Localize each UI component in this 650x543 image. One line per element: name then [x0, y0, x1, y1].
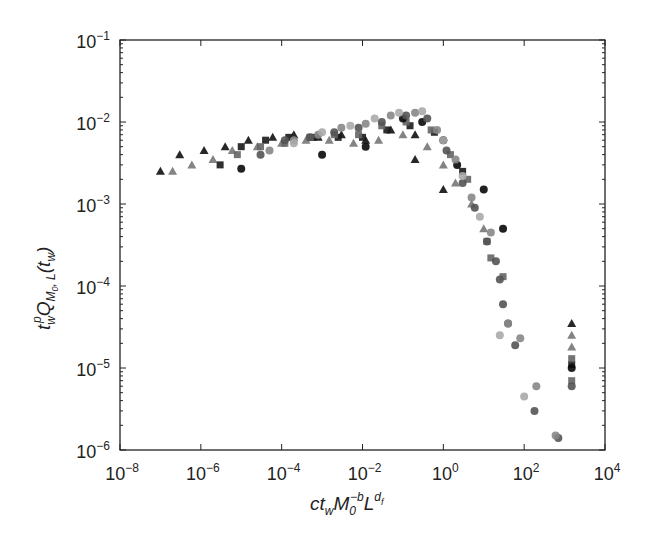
- data-point: [318, 151, 326, 159]
- data-point: [530, 407, 538, 415]
- axis-ticks: [120, 40, 605, 450]
- data-point: [496, 331, 504, 339]
- x-tick-label: 10−6: [186, 461, 220, 484]
- plot-area: [120, 40, 605, 450]
- data-point: [337, 124, 345, 132]
- data-point: [520, 392, 528, 400]
- data-point: [217, 161, 224, 168]
- data-point: [568, 355, 575, 362]
- data-point: [266, 146, 274, 154]
- data-point: [290, 139, 298, 147]
- y-tick-label: 10−4: [76, 275, 110, 298]
- data-point: [187, 160, 196, 168]
- data-point: [374, 136, 383, 144]
- data-point: [355, 124, 363, 132]
- data-point: [479, 224, 488, 232]
- x-tick-label: 100: [432, 461, 459, 484]
- data-point: [439, 185, 448, 193]
- series-black-triangles: [156, 125, 576, 326]
- x-axis-title: ctwM0−bLdf: [310, 490, 385, 518]
- data-point: [200, 146, 209, 154]
- data-point: [443, 146, 451, 154]
- axes-frame: [120, 40, 605, 450]
- data-point: [567, 343, 576, 351]
- data-point: [349, 139, 358, 147]
- data-point: [257, 143, 264, 150]
- data-point: [567, 319, 576, 327]
- data-point: [244, 136, 253, 144]
- data-point: [480, 186, 488, 194]
- data-point: [504, 319, 512, 327]
- data-point: [268, 133, 277, 141]
- data-point: [487, 228, 495, 236]
- y-axis-title: twpQM0, L(tw): [30, 247, 60, 330]
- x-tick-label: 102: [513, 461, 540, 484]
- data-point: [496, 276, 504, 284]
- y-tick-label: 10−6: [76, 439, 110, 462]
- data-point: [568, 382, 576, 390]
- data-point: [402, 112, 410, 120]
- data-point: [459, 179, 467, 187]
- data-point: [355, 131, 362, 138]
- data-point: [516, 334, 524, 342]
- data-point: [262, 137, 269, 144]
- data-point: [492, 257, 500, 265]
- data-point: [511, 341, 519, 349]
- data-point: [257, 151, 265, 159]
- data-point: [471, 204, 479, 212]
- data-point: [318, 128, 326, 136]
- data-point: [362, 120, 370, 128]
- data-point: [423, 115, 431, 123]
- scatter-chart: 10−810−610−410−2100102104 10−610−510−410…: [0, 0, 650, 543]
- data-point: [499, 225, 507, 233]
- y-tick-label: 10−1: [76, 29, 110, 52]
- data-point: [234, 151, 241, 158]
- data-point: [439, 160, 448, 168]
- data-point: [423, 142, 432, 150]
- data-point: [387, 112, 395, 120]
- data-point: [418, 107, 426, 115]
- data-point: [468, 194, 476, 202]
- data-point: [476, 213, 484, 221]
- data-point: [532, 382, 540, 390]
- data-point: [362, 143, 370, 151]
- data-point: [451, 155, 459, 163]
- y-tick-labels: 10−610−510−410−310−210−1: [76, 29, 110, 462]
- y-tick-label: 10−5: [76, 357, 110, 380]
- data-point: [237, 165, 245, 173]
- data-point: [208, 155, 217, 163]
- data-point: [411, 155, 420, 163]
- data-point: [221, 142, 230, 150]
- data-point: [378, 118, 386, 126]
- series-black-squares: [217, 122, 576, 368]
- data-point: [459, 172, 467, 180]
- data-point: [483, 237, 491, 245]
- data-point: [567, 331, 576, 339]
- x-tick-labels: 10−810−610−410−2100102104: [105, 461, 621, 484]
- series-gray-triangles: [168, 130, 576, 350]
- data-point: [568, 364, 576, 372]
- data-point: [346, 122, 354, 130]
- y-tick-label: 10−3: [76, 193, 110, 216]
- data-point: [156, 167, 165, 175]
- x-tick-label: 10−4: [267, 461, 301, 484]
- data-points: [156, 107, 576, 442]
- data-point: [398, 130, 407, 138]
- data-point: [499, 300, 507, 308]
- x-tick-label: 104: [594, 461, 621, 484]
- series-black-circles: [237, 115, 575, 372]
- data-point: [238, 143, 245, 150]
- data-point: [281, 136, 289, 144]
- series-light-gray-circles: [290, 107, 528, 400]
- series-gray-squares: [234, 119, 575, 385]
- data-point: [371, 115, 379, 123]
- data-point: [330, 128, 338, 136]
- data-point: [411, 109, 419, 117]
- y-tick-label: 10−2: [76, 111, 110, 134]
- data-point: [552, 432, 560, 440]
- series-mid-gray-circles: [266, 109, 560, 440]
- data-point: [395, 109, 403, 117]
- x-tick-label: 10−8: [105, 461, 139, 484]
- data-point: [175, 150, 184, 158]
- data-point: [306, 133, 314, 141]
